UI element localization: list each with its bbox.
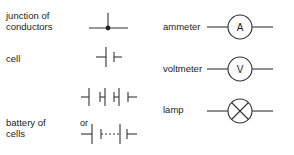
- junction-icon: [89, 13, 128, 30]
- battery-icon: [81, 88, 137, 106]
- cell-icon: [96, 47, 122, 67]
- ammeter-glyph: A: [237, 22, 244, 33]
- battery-alt-icon: [81, 124, 137, 144]
- voltmeter-glyph: V: [237, 64, 244, 75]
- circuit-symbols-diagram: A V: [0, 0, 294, 155]
- lamp-icon: [207, 99, 273, 123]
